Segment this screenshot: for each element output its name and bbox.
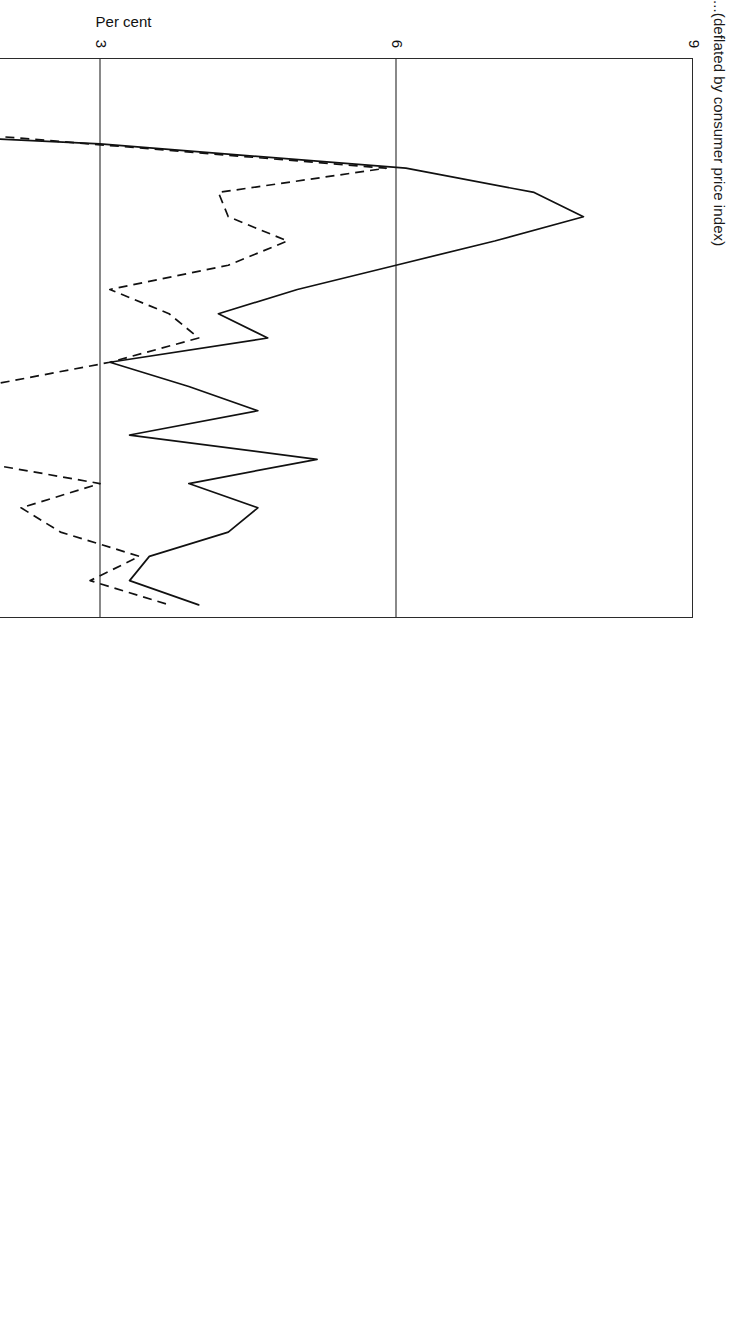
chart-title: ...(deflated by consumer price index) [711,0,728,246]
y-axis-tick-label: 6 [390,0,407,48]
series-line-treasury [0,59,583,605]
y-axis-label: Per cent [69,13,179,30]
y-axis-tick-label: 9 [686,0,703,48]
series-line-fedfunds [0,59,386,605]
rotated-figure: ...(deflated by consumer price index) 03… [0,0,730,1340]
plot-area [0,58,693,618]
chart-page: ...(deflated by consumer price index) 03… [0,0,730,1340]
plot-svg [0,59,692,617]
